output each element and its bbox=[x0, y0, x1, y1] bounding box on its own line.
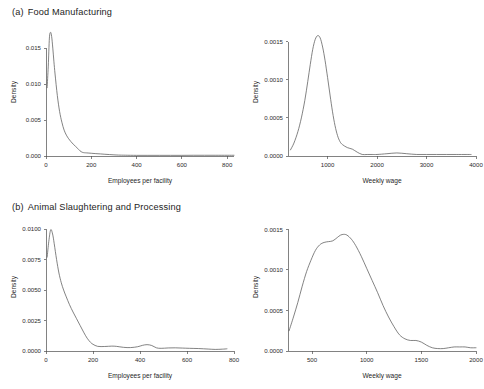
x-tick-label: 200 bbox=[86, 161, 97, 168]
x-tick-label: 500 bbox=[307, 356, 318, 363]
panel-a: (a)Food Manufacturing 0.0000.0050.0100.0… bbox=[0, 0, 484, 194]
x-axis-title: Weekly wage bbox=[362, 177, 401, 185]
x-tick-label: 0 bbox=[44, 161, 48, 168]
density-curve bbox=[290, 36, 471, 155]
x-tick-label: 400 bbox=[135, 356, 146, 363]
y-tick-label: 0.0005 bbox=[264, 114, 283, 121]
panel-b-caption: (b)Animal Slaughtering and Processing bbox=[12, 202, 181, 212]
y-axis-title: Density bbox=[10, 80, 18, 103]
x-tick-label: 600 bbox=[177, 161, 188, 168]
x-axis-title: Employees per facility bbox=[108, 177, 173, 185]
x-axis-title: Weekly wage bbox=[362, 372, 401, 380]
x-tick-label: 2000 bbox=[469, 356, 483, 363]
x-tick-label: 600 bbox=[182, 356, 193, 363]
density-curve bbox=[289, 234, 476, 348]
y-tick-label: 0.0000 bbox=[264, 152, 283, 159]
y-tick-label: 0.0100 bbox=[22, 225, 41, 232]
density-curve bbox=[47, 32, 234, 155]
density-plot-svg: 0.00000.00050.00100.0015500100015002000W… bbox=[242, 213, 484, 385]
x-tick-label: 3000 bbox=[420, 161, 434, 168]
chart-food-employees: 0.0000.0050.0100.0150200400600800Employe… bbox=[0, 18, 242, 190]
x-tick-label: 400 bbox=[132, 161, 143, 168]
y-tick-label: 0.010 bbox=[26, 80, 42, 87]
x-tick-label: 200 bbox=[88, 356, 99, 363]
panel-b: (b)Animal Slaughtering and Processing 0.… bbox=[0, 195, 484, 389]
x-tick-label: 800 bbox=[222, 161, 233, 168]
y-tick-label: 0.005 bbox=[26, 116, 42, 123]
y-tick-label: 0.000 bbox=[26, 152, 42, 159]
y-tick-label: 0.0025 bbox=[22, 317, 41, 324]
x-axis-title: Employees per facility bbox=[108, 372, 173, 380]
y-tick-label: 0.0015 bbox=[264, 226, 283, 233]
x-tick-label: 2000 bbox=[370, 161, 384, 168]
x-tick-label: 1500 bbox=[415, 356, 429, 363]
chart-animal-employees: 0.00000.00250.00500.00750.01000200400600… bbox=[0, 213, 242, 385]
y-tick-label: 0.015 bbox=[26, 44, 42, 51]
y-tick-label: 0.0075 bbox=[22, 256, 41, 263]
panel-b-tag: (b) bbox=[12, 202, 24, 212]
density-curve bbox=[47, 229, 227, 349]
x-tick-label: 4000 bbox=[469, 161, 483, 168]
y-tick-label: 0.0015 bbox=[264, 38, 283, 45]
density-plot-svg: 0.0000.0050.0100.0150200400600800Employe… bbox=[0, 18, 242, 190]
x-tick-label: 1000 bbox=[321, 161, 335, 168]
y-axis-title: Density bbox=[252, 275, 260, 298]
panel-a-caption: (a)Food Manufacturing bbox=[12, 7, 112, 17]
panel-b-title: Animal Slaughtering and Processing bbox=[28, 202, 181, 212]
chart-food-wage: 0.00000.00050.00100.00151000200030004000… bbox=[242, 18, 484, 190]
figure-container: (a)Food Manufacturing 0.0000.0050.0100.0… bbox=[0, 0, 484, 389]
y-tick-label: 0.0000 bbox=[22, 347, 41, 354]
density-plot-svg: 0.00000.00250.00500.00750.01000200400600… bbox=[0, 213, 242, 385]
panel-a-title: Food Manufacturing bbox=[28, 7, 112, 17]
chart-animal-wage: 0.00000.00050.00100.0015500100015002000W… bbox=[242, 213, 484, 385]
x-tick-label: 1000 bbox=[360, 356, 374, 363]
y-axis-title: Density bbox=[10, 275, 18, 298]
y-tick-label: 0.0050 bbox=[22, 286, 41, 293]
y-tick-label: 0.0000 bbox=[264, 347, 283, 354]
panel-a-tag: (a) bbox=[12, 7, 24, 17]
y-tick-label: 0.0005 bbox=[264, 307, 283, 314]
y-tick-label: 0.0010 bbox=[264, 266, 283, 273]
x-tick-label: 800 bbox=[229, 356, 240, 363]
density-plot-svg: 0.00000.00050.00100.00151000200030004000… bbox=[242, 18, 484, 190]
y-axis-title: Density bbox=[252, 80, 260, 103]
x-tick-label: 0 bbox=[44, 356, 48, 363]
y-tick-label: 0.0010 bbox=[264, 76, 283, 83]
